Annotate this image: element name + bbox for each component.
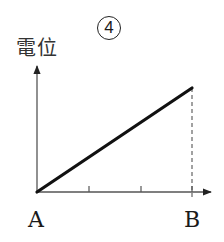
potential-graph bbox=[0, 0, 224, 242]
potential-line bbox=[37, 88, 192, 192]
x-label-b: B bbox=[184, 209, 200, 231]
x-label-a: A bbox=[28, 209, 44, 231]
